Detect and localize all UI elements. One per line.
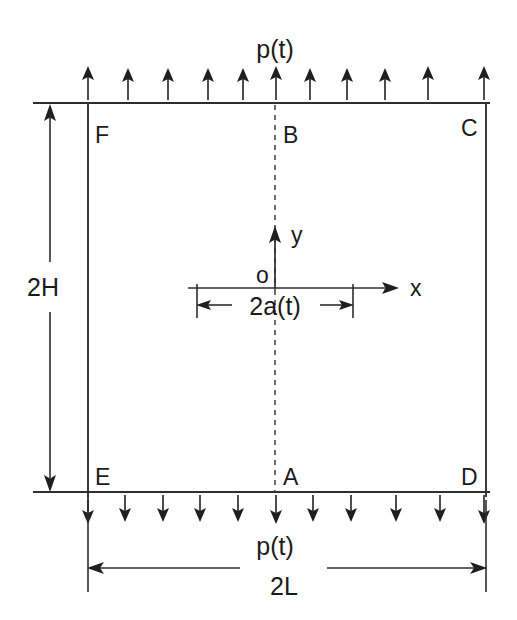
top-load-arrow [422, 66, 434, 100]
top-load-arrow [202, 68, 214, 100]
height-dimension-label: 2H [27, 273, 59, 301]
bottom-load-arrow [345, 495, 357, 522]
top-load-label: p(t) [256, 35, 294, 63]
top-load-arrow [270, 66, 282, 100]
bottom-load-label: p(t) [256, 532, 294, 560]
bottom-load-arrow [119, 495, 131, 522]
top-load-arrow [237, 68, 249, 100]
bottom-load-arrow [232, 495, 244, 522]
plate-diagram-svg: p(t) [0, 0, 517, 620]
top-load-arrow [341, 68, 353, 100]
node-label-E: E [95, 464, 110, 490]
y-axis-label: y [291, 222, 303, 248]
x-axis-label: x [410, 275, 422, 301]
figure-container: p(t) [0, 0, 517, 620]
bottom-load-arrow [307, 495, 319, 522]
bottom-load-arrow [390, 495, 402, 522]
node-label-B: B [283, 122, 298, 148]
top-load-arrow [122, 68, 134, 100]
bottom-load-arrow [157, 495, 169, 522]
crack-dimension-label: 2a(t) [249, 292, 300, 320]
bottom-load-arrow [478, 495, 490, 524]
origin-label: o [256, 262, 269, 288]
top-load-arrow [162, 68, 174, 100]
node-label-D: A [283, 464, 299, 490]
node-label-A: D [461, 464, 478, 490]
bottom-load-arrow-group [82, 495, 490, 524]
top-load-arrow [379, 68, 391, 100]
bottom-load-arrow [270, 495, 282, 524]
top-load-arrow-group [82, 66, 490, 100]
node-label-C: C [461, 115, 478, 141]
top-load-arrow [478, 66, 490, 100]
top-load-arrow [82, 66, 94, 100]
bottom-load-arrow [194, 495, 206, 522]
node-label-F: F [95, 122, 109, 148]
width-dimension-label: 2L [270, 572, 298, 600]
bottom-load-arrow [434, 495, 446, 522]
top-load-arrow [304, 68, 316, 100]
